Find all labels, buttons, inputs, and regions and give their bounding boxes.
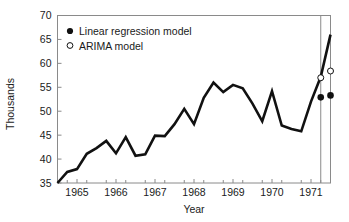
y-tick-label: 65: [40, 33, 52, 45]
y-tick-label: 55: [40, 81, 52, 93]
chart-legend: Linear regression model ARIMA model: [67, 25, 192, 52]
arima-forecast-markers: [318, 68, 334, 81]
linear-regression-forecast-point: [317, 94, 324, 101]
line-chart: 3540455055606570 19651966196719681969197…: [0, 0, 349, 222]
y-tick-label: 70: [40, 9, 52, 21]
y-axis-tick-labels: 3540455055606570: [40, 9, 52, 189]
legend-open-circle-icon: [67, 43, 73, 49]
x-axis-title: Year: [183, 203, 205, 215]
linear-regression-forecast-point: [327, 92, 334, 99]
x-tick-label: 1971: [299, 186, 323, 198]
legend-label-arima: ARIMA model: [79, 40, 143, 52]
y-axis-ticks: [58, 16, 62, 184]
linear-regression-forecast-markers: [317, 92, 333, 101]
x-axis-ticks: [77, 179, 311, 183]
y-tick-label: 35: [40, 177, 52, 189]
y-tick-label: 40: [40, 153, 52, 165]
arima-forecast-point: [318, 75, 324, 81]
x-tick-label: 1969: [221, 186, 245, 198]
x-tick-label: 1968: [182, 186, 206, 198]
x-tick-label: 1965: [65, 186, 89, 198]
y-tick-label: 45: [40, 129, 52, 141]
arima-forecast-point: [328, 68, 334, 74]
y-axis-title: Thousands: [4, 78, 16, 130]
x-axis-tick-labels: 1965196619671968196919701971: [65, 186, 323, 198]
chart-figure: 3540455055606570 19651966196719681969197…: [0, 0, 349, 222]
y-tick-label: 50: [40, 105, 52, 117]
observed-series-line: [58, 35, 331, 183]
legend-filled-circle-icon: [67, 28, 73, 34]
x-tick-label: 1970: [260, 186, 284, 198]
legend-label-linear-regression: Linear regression model: [79, 25, 192, 37]
y-tick-label: 60: [40, 57, 52, 69]
x-tick-label: 1966: [104, 186, 128, 198]
x-tick-label: 1967: [143, 186, 167, 198]
